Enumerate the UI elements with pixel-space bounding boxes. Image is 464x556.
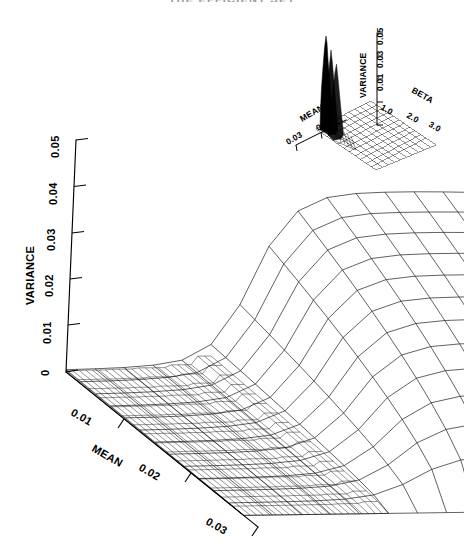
main-surface-plot: VARIANCE 0.05 0.04 0.03 0.02 0.01 0 MEAN…: [0, 120, 464, 556]
main-surface-svg: [0, 120, 464, 556]
main-variance-axis: [66, 139, 88, 373]
inset-variance-tick-005: 0.05: [375, 28, 385, 45]
variance-tick-001: 0.01: [41, 321, 53, 344]
variance-tick-004: 0.04: [47, 182, 59, 205]
variance-tick-0: 0: [39, 370, 51, 376]
page-title: THE EFFICIENT SET: [0, 0, 464, 2]
main-variance-axis-label: VARIANCE: [24, 246, 36, 305]
inset-variance-tick-001: 0.01: [375, 74, 385, 91]
surface-base-patch: [66, 356, 389, 515]
inset-variance-axis-label: VARIANCE: [358, 53, 368, 98]
variance-tick-005: 0.05: [49, 135, 61, 158]
surface-mesh: [66, 192, 464, 516]
variance-tick-002: 0.02: [43, 274, 55, 297]
variance-tick-003: 0.03: [45, 228, 57, 251]
figure-canvas: THE EFFICIENT SET: [0, 0, 464, 556]
inset-variance-tick-003: 0.03: [375, 51, 385, 68]
